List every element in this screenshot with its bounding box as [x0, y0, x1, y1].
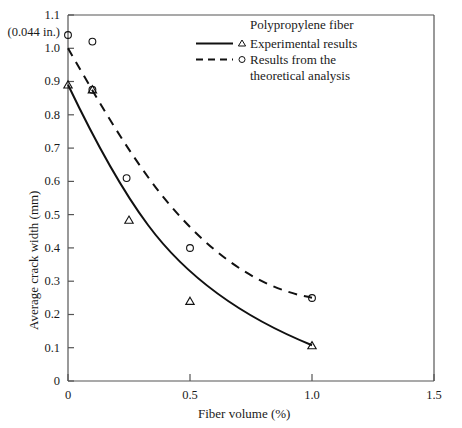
legend-title: Polypropylene fiber: [250, 17, 446, 33]
theoretical-curve: [68, 48, 312, 297]
legend-entry-experimental: Experimental results: [196, 36, 446, 51]
legend-label-theoretical: Results from the: [250, 52, 336, 67]
y-tick-1.1: 1.1: [8, 8, 60, 23]
y-axis-ticks: [68, 15, 74, 381]
y-tick-1.0: 1.0: [8, 41, 60, 56]
y-tick-0.1: 0.1: [8, 341, 60, 356]
legend-label-experimental: Experimental results: [250, 36, 357, 51]
solid-line-icon: [196, 36, 250, 51]
legend-label-theoretical-line2: theoretical analysis: [250, 68, 446, 83]
dashed-line-icon: [196, 52, 250, 67]
y-axis-title: Average crack width (mm): [26, 191, 42, 330]
x-tick-0.5: 0.5: [170, 388, 210, 403]
chart-figure: 1.1 1.0 0.9 0.8 0.7 0.6 0.5 0.4 0.3 0.2 …: [0, 0, 462, 428]
y-tick-0.6: 0.6: [8, 174, 60, 189]
legend-key-experimental: [196, 36, 250, 51]
x-tick-1.0: 1.0: [292, 388, 332, 403]
unit-annotation: (0.044 in.): [0, 25, 60, 40]
y-tick-0: 0: [8, 374, 60, 389]
x-axis-title: Fiber volume (%): [198, 406, 290, 422]
experimental-curve: [68, 85, 312, 345]
legend-key-theoretical: [196, 52, 250, 67]
legend-entry-theoretical: Results from the: [196, 52, 446, 67]
y-tick-0.7: 0.7: [8, 141, 60, 156]
legend: Polypropylene fiber Experimental results…: [196, 17, 446, 83]
y-tick-0.8: 0.8: [8, 108, 60, 123]
x-tick-0: 0: [48, 388, 88, 403]
experimental-markers: [64, 81, 316, 349]
y-tick-0.9: 0.9: [8, 74, 60, 89]
x-tick-1.5: 1.5: [414, 388, 454, 403]
x-axis-ticks: [68, 374, 434, 381]
